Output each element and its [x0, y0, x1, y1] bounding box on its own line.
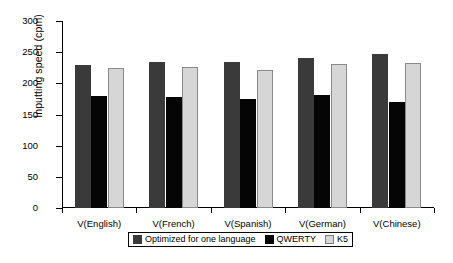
x-axis-tick — [62, 208, 63, 213]
bar-vspanish-1 — [240, 99, 256, 208]
bar-venglish-0 — [75, 65, 91, 208]
y-axis-tick — [56, 21, 62, 22]
legend: Optimized for one languageQWERTYK5 — [128, 232, 353, 247]
bar-vgerman-1 — [314, 95, 330, 208]
y-axis-tick — [56, 83, 62, 84]
bar-chart-figure: Inputting speed (cpm) 050100150200250300… — [0, 0, 453, 263]
bar-vspanish-2 — [257, 70, 273, 208]
y-axis-line — [62, 21, 63, 208]
bar-vfrench-0 — [149, 62, 165, 208]
y-axis-tick — [56, 115, 62, 116]
legend-item: K5 — [325, 235, 348, 244]
x-axis-tick-label: V(Chinese) — [352, 218, 442, 229]
legend-swatch-icon — [133, 235, 142, 244]
y-axis-tick-label: 300 — [0, 16, 38, 26]
legend-swatch-icon — [325, 235, 334, 244]
x-axis-tick — [136, 208, 137, 213]
y-axis-tick — [56, 146, 62, 147]
y-axis-tick-label: 200 — [0, 79, 38, 89]
bar-venglish-2 — [108, 68, 124, 208]
bar-vgerman-0 — [298, 58, 314, 208]
bar-vfrench-2 — [182, 67, 198, 208]
plot-area: 050100150200250300V(English)V(French)V(S… — [62, 21, 434, 208]
legend-label: QWERTY — [277, 235, 316, 244]
bar-vchinese-1 — [389, 102, 405, 208]
x-axis-tick — [211, 208, 212, 213]
y-axis-tick-label: 250 — [0, 47, 38, 57]
legend-label: Optimized for one language — [145, 235, 256, 244]
legend-label: K5 — [337, 235, 348, 244]
x-axis-tick — [285, 208, 286, 213]
y-axis-tick-label: 50 — [0, 172, 38, 182]
legend-item: QWERTY — [265, 235, 316, 244]
bar-vfrench-1 — [166, 97, 182, 208]
y-axis-tick — [56, 177, 62, 178]
y-axis-tick — [56, 52, 62, 53]
bar-vspanish-0 — [224, 62, 240, 208]
x-axis-tick — [434, 208, 435, 213]
legend-item: Optimized for one language — [133, 235, 256, 244]
y-axis-tick-label: 150 — [0, 110, 38, 120]
bar-vchinese-2 — [405, 63, 421, 208]
legend-swatch-icon — [265, 235, 274, 244]
bar-vchinese-0 — [372, 54, 388, 208]
x-axis-tick — [360, 208, 361, 213]
bar-vgerman-2 — [331, 64, 347, 208]
y-axis-tick-label: 0 — [0, 203, 38, 213]
y-axis-tick-label: 100 — [0, 141, 38, 151]
bar-venglish-1 — [91, 96, 107, 208]
